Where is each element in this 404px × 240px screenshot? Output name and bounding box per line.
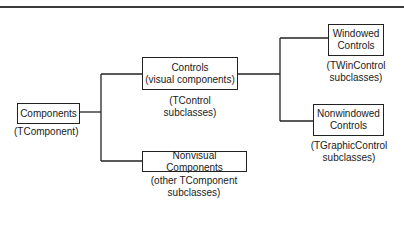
node-controls-label-line2: (visual components) <box>145 74 234 86</box>
node-nonwindowed-sublabel-line1: (TGraphicControl <box>306 140 392 152</box>
node-nonwindowed-label-line2: Controls <box>330 120 367 132</box>
node-nonwindowed-controls: Nonwindowed Controls <box>313 104 384 136</box>
node-controls-sublabel-line2: subclasses) <box>142 107 238 119</box>
node-nonwindowed-sublabel: (TGraphicControl subclasses) <box>306 140 392 164</box>
node-windowed-controls: Windowed Controls <box>328 24 384 56</box>
node-components: Components <box>17 103 80 124</box>
node-nonvisual-sublabel: (other TComponent subclasses) <box>138 175 250 199</box>
node-components-label: Components <box>20 108 77 120</box>
node-nonvisual-label: Nonvisual Components <box>143 150 246 174</box>
node-windowed-label-line2: Controls <box>337 40 374 52</box>
node-controls: Controls (visual components) <box>142 57 238 90</box>
node-controls-sublabel-line1: (TControl <box>142 95 238 107</box>
node-components-sublabel: (TComponent) <box>14 126 86 138</box>
node-nonwindowed-sublabel-line2: subclasses) <box>306 152 392 164</box>
node-controls-sublabel: (TControl subclasses) <box>142 95 238 119</box>
node-controls-label-line1: Controls <box>171 62 208 74</box>
node-nonvisual-components: Nonvisual Components <box>142 151 247 172</box>
node-nonvisual-sublabel-line2: subclasses) <box>138 187 250 199</box>
node-nonvisual-sublabel-line1: (other TComponent <box>138 175 250 187</box>
node-nonwindowed-label-line1: Nonwindowed <box>317 108 380 120</box>
node-windowed-label-line1: Windowed <box>333 28 380 40</box>
node-windowed-sublabel-line2: subclasses) <box>318 72 394 84</box>
node-windowed-sublabel: (TWinControl subclasses) <box>318 60 394 84</box>
node-windowed-sublabel-line1: (TWinControl <box>318 60 394 72</box>
node-components-sublabel-text: (TComponent) <box>14 126 78 137</box>
